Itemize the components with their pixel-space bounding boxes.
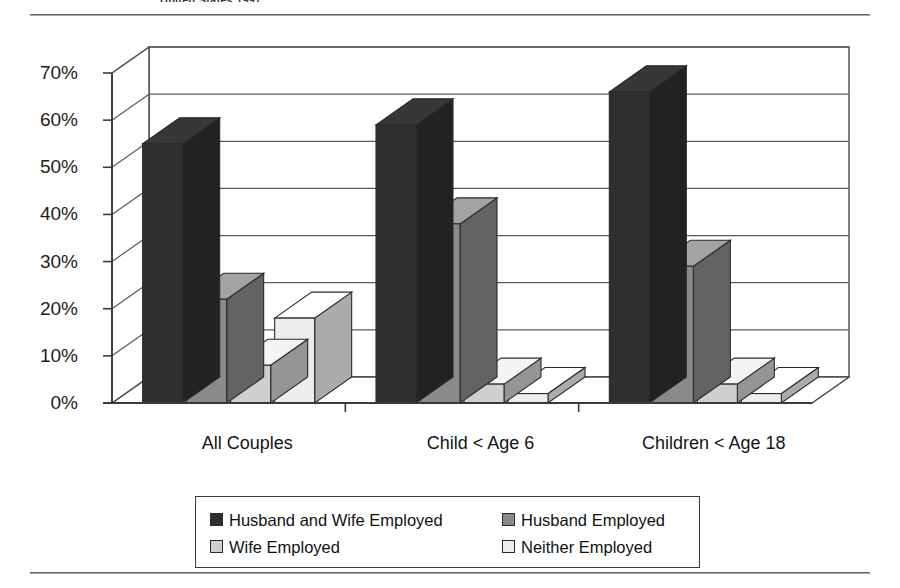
legend-item[interactable]: Wife Employed [210,533,502,560]
x-axis-category-label: Children < Age 18 [614,432,814,454]
bar-side-face [693,240,730,403]
bar-side-face [416,99,453,403]
x-axis-category-label: Child < Age 6 [381,432,581,454]
bar-front-face [609,92,649,403]
x-axis-category-label: All Couples [147,432,347,454]
y-axis-tick-label: 10% [0,346,90,365]
bar-side-face [649,66,686,403]
legend-swatch-icon [502,540,515,553]
chart-legend: Husband and Wife EmployedHusband Employe… [195,496,700,568]
y-axis-tick-label: 30% [0,252,90,271]
legend-item[interactable]: Husband and Wife Employed [210,506,502,533]
page-canvas: United States 1997 0%10%20%30%40%50%60%7… [0,0,900,588]
legend-label: Husband Employed [521,511,665,529]
legend-label: Wife Employed [229,538,340,556]
legend-item[interactable]: Neither Employed [502,533,702,560]
bar [376,99,453,403]
legend-label: Neither Employed [521,538,652,556]
clipped-heading: United States 1997 [160,0,261,2]
legend-label: Husband and Wife Employed [229,511,443,529]
y-axis-labels: 0%10%20%30%40%50%60%70% [12,26,90,446]
bar-side-face [183,118,220,403]
chart: 0%10%20%30%40%50%60%70% All CouplesChild… [12,26,884,556]
bar-side-face [460,198,497,403]
bar [143,118,220,403]
x-axis-labels: All CouplesChild < Age 6Children < Age 1… [90,432,850,466]
y-axis-tick-label: 20% [0,299,90,318]
y-axis-tick-label: 50% [0,157,90,176]
legend-swatch-icon [210,540,223,553]
legend-item[interactable]: Husband Employed [502,506,702,533]
bar [609,66,686,403]
bar-front-face [376,125,416,403]
legend-swatch-icon [502,513,515,526]
plot-area [90,26,850,426]
horizontal-rule-bottom [30,572,870,574]
y-axis-tick-label: 70% [0,63,90,82]
y-axis-tick-label: 0% [0,393,90,412]
bar-chart-svg [90,26,850,426]
bar-front-face [143,144,183,403]
horizontal-rule-top [30,14,870,16]
legend-swatch-icon [210,513,223,526]
y-axis-tick-label: 40% [0,204,90,223]
y-axis-tick-label: 60% [0,110,90,129]
